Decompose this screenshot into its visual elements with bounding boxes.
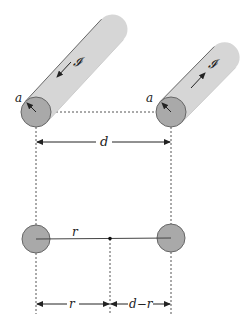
cross-section: r (22, 224, 185, 253)
cross-section-r-label: r (72, 225, 79, 239)
cross-section-line (36, 238, 171, 239)
radius-label-right: a (146, 91, 153, 105)
bottom-dimensions: r d−r (37, 297, 170, 311)
separation-label: d (100, 134, 108, 149)
left-wire: 𝓘 a (15, 14, 128, 127)
bottom-r-label: r (69, 297, 76, 311)
bottom-d-minus-r-label: d−r (129, 297, 154, 311)
field-point (108, 237, 112, 241)
radius-label-left: a (15, 91, 22, 105)
right-wire: 𝓘 a (146, 42, 240, 127)
separation-dimension: d (37, 134, 170, 149)
parallel-wires-diagram: 𝓘 a 𝓘 a d r r (0, 0, 246, 327)
